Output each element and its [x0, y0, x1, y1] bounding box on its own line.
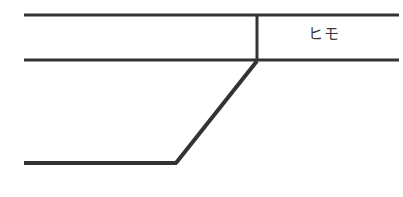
- diagonal-line: [176, 61, 257, 163]
- diagram-svg: [0, 0, 403, 197]
- himo-label: ヒモ: [308, 27, 340, 42]
- diagram-canvas: ヒモ: [0, 0, 403, 197]
